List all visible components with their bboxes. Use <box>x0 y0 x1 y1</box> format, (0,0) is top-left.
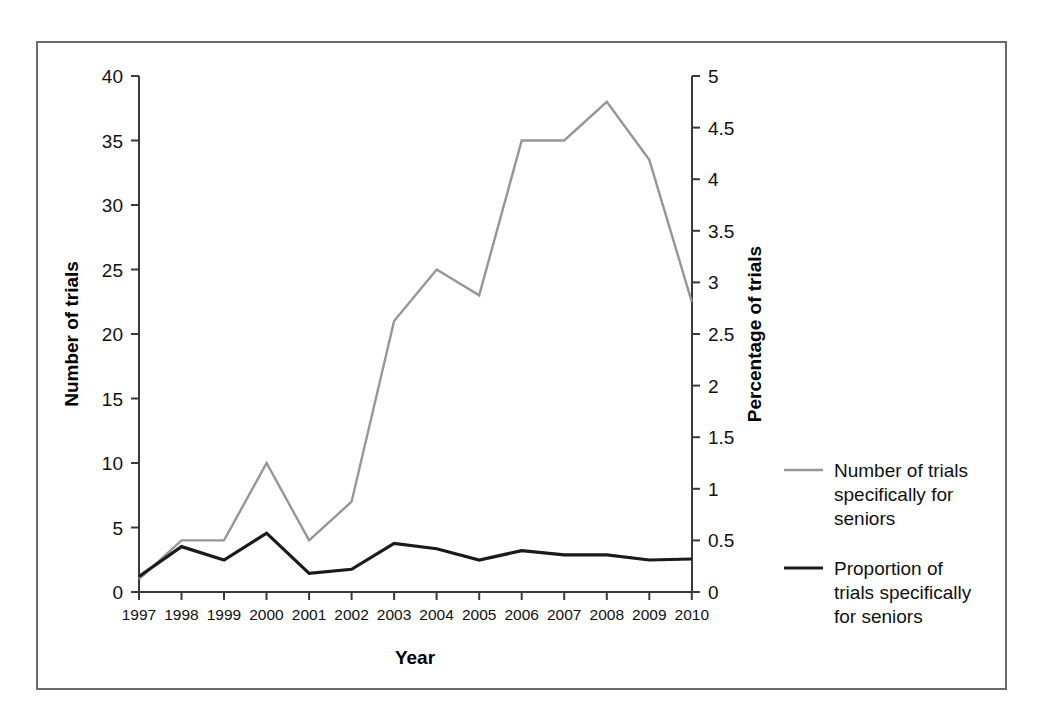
y2-tick-label-0_5: 0.5 <box>708 530 734 551</box>
y-tick-label-15: 15 <box>102 389 123 410</box>
x-tick-label-2001: 2001 <box>292 606 326 623</box>
x-axis-ticks <box>139 592 692 600</box>
x-axis-title: Year <box>395 647 436 668</box>
y-tick-label-10: 10 <box>102 453 123 474</box>
y2-tick-label-4_5: 4.5 <box>708 118 734 139</box>
y2-tick-label-1: 1 <box>708 479 719 500</box>
x-tick-label-2010: 2010 <box>675 606 710 623</box>
y2-tick-label-4: 4 <box>708 169 719 190</box>
y2-axis-title: Percentage of trials <box>744 246 765 422</box>
x-tick-label-2006: 2006 <box>504 606 538 623</box>
x-tick-label-2008: 2008 <box>590 606 624 623</box>
y-tick-label-30: 30 <box>102 195 123 216</box>
y-tick-label-40: 40 <box>102 66 123 87</box>
legend-label-proportion-line2: trials specifically <box>834 582 972 603</box>
left-axis-ticks <box>131 76 139 592</box>
legend-label-number-line1: Number of trials <box>834 460 968 481</box>
x-tick-label-2003: 2003 <box>377 606 411 623</box>
series-number-of-trials-line <box>139 102 692 579</box>
legend: Number of trials specifically for senior… <box>784 460 972 627</box>
y2-tick-label-0: 0 <box>708 582 719 603</box>
y2-tick-label-2: 2 <box>708 376 719 397</box>
legend-label-proportion-line1: Proportion of <box>834 558 944 579</box>
legend-label-number-line3: seniors <box>834 508 895 529</box>
y-tick-label-20: 20 <box>102 324 123 345</box>
y-tick-label-0: 0 <box>112 582 123 603</box>
y-tick-label-25: 25 <box>102 260 123 281</box>
x-tick-label-2007: 2007 <box>547 606 581 623</box>
y2-tick-label-3_5: 3.5 <box>708 221 734 242</box>
y2-tick-label-1_5: 1.5 <box>708 427 734 448</box>
chart-plot-area: 0 5 10 15 20 25 30 35 40 0 0.5 1 1.5 2 2… <box>0 0 1038 720</box>
legend-label-number-line2: specifically for <box>834 484 954 505</box>
x-tick-label-1997: 1997 <box>122 606 156 623</box>
right-axis-ticks <box>692 76 700 592</box>
legend-label-proportion-line3: for seniors <box>834 606 923 627</box>
x-tick-label-2004: 2004 <box>419 606 454 623</box>
x-tick-label-2005: 2005 <box>462 606 496 623</box>
x-tick-label-2002: 2002 <box>334 606 368 623</box>
y-axis-title: Number of trials <box>61 261 82 407</box>
y-tick-label-35: 35 <box>102 131 123 152</box>
y2-tick-label-3: 3 <box>708 272 719 293</box>
x-tick-label-1999: 1999 <box>207 606 241 623</box>
x-tick-label-2009: 2009 <box>632 606 666 623</box>
y2-tick-label-2_5: 2.5 <box>708 324 734 345</box>
y-tick-label-5: 5 <box>112 518 123 539</box>
x-tick-label-1998: 1998 <box>164 606 198 623</box>
y2-tick-label-5: 5 <box>708 66 719 87</box>
x-tick-label-2000: 2000 <box>249 606 284 623</box>
